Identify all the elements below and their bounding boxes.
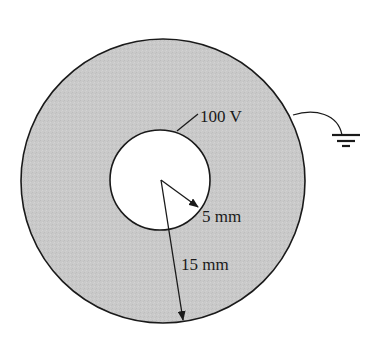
coax-diagram: 100 V 5 mm 15 mm xyxy=(0,0,388,348)
inner-conductor xyxy=(110,130,210,230)
outer-radius-label: 15 mm xyxy=(181,255,229,274)
inner-radius-label: 5 mm xyxy=(202,207,241,226)
ground-icon xyxy=(293,112,360,146)
inner-potential-label: 100 V xyxy=(200,107,242,126)
